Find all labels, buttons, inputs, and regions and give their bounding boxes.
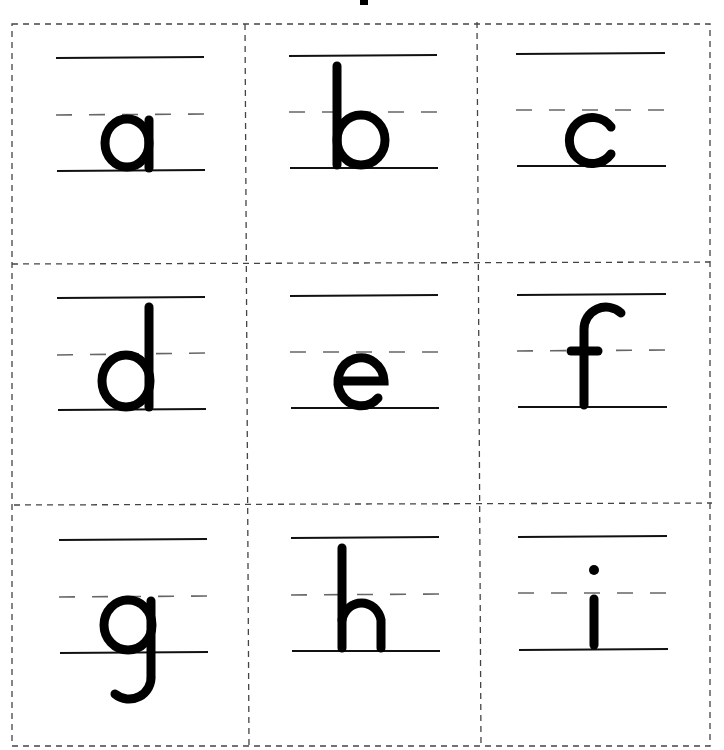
letter-a-glyph xyxy=(105,119,149,168)
letter-f-glyph xyxy=(571,307,621,405)
letter-d-glyph xyxy=(102,307,150,407)
letter-g-glyph xyxy=(104,600,152,699)
letter-h-glyph xyxy=(342,548,381,648)
letter-c-glyph xyxy=(569,118,611,164)
letter-e-glyph xyxy=(338,358,384,406)
letter-i-dot xyxy=(589,565,599,575)
letter-b-glyph xyxy=(337,66,385,165)
letter-card-sheet xyxy=(0,0,724,750)
